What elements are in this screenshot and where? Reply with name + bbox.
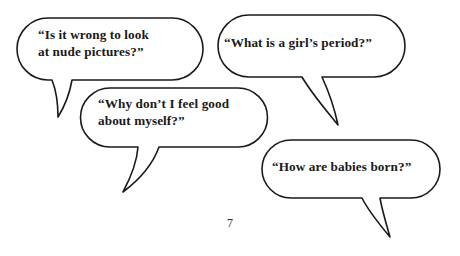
page-number: 7	[0, 216, 460, 231]
illustration-page: “Is it wrong to look at nude pictures?” …	[0, 0, 460, 256]
bubble-3-text: “Why don’t I feel good about myself?”	[98, 96, 270, 129]
bubble-4-text: “How are babies born?”	[272, 159, 444, 176]
bubble-2-text: “What is a girl’s period?”	[224, 35, 404, 52]
bubble-1-text: “Is it wrong to look at nude pictures?”	[38, 27, 206, 60]
